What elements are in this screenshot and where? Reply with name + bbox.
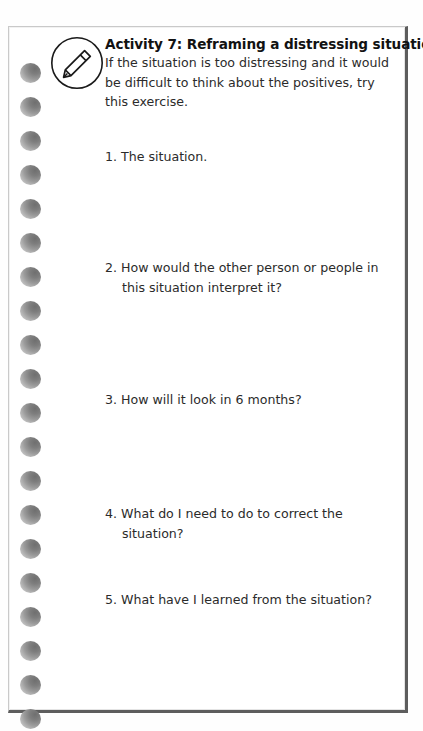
binding-hole <box>20 335 41 355</box>
margin-rule <box>52 27 53 710</box>
binding-hole <box>20 301 41 321</box>
binding-margin-strip <box>9 27 53 710</box>
question-number: 1. <box>105 149 117 164</box>
header-block: Activity 7: Reframing a distressing situ… <box>105 27 397 112</box>
question-text: How will it look in 6 months? <box>117 392 302 407</box>
question-text: What have I learned from the situation? <box>117 592 372 607</box>
binding-hole <box>20 63 41 83</box>
binding-hole <box>20 267 41 287</box>
worksheet-page: Activity 7: Reframing a distressing situ… <box>0 0 423 731</box>
pencil-icon <box>49 35 105 91</box>
question-text: The situation. <box>117 149 207 164</box>
question-item: 1. The situation. <box>105 147 207 167</box>
question-text: How would the other person or people in … <box>117 260 378 295</box>
question-item: 2. How would the other person or people … <box>105 258 395 297</box>
question-item: 3. How will it look in 6 months? <box>105 390 302 410</box>
page-title: Activity 7: Reframing a distressing situ… <box>105 27 397 52</box>
binding-hole <box>20 403 41 423</box>
binding-hole <box>20 199 41 219</box>
question-number: 3. <box>105 392 117 407</box>
question-number: 5. <box>105 592 117 607</box>
question-number: 2. <box>105 260 117 275</box>
binding-hole <box>20 539 41 559</box>
binding-hole <box>20 131 41 151</box>
binding-hole <box>20 97 41 117</box>
binding-hole <box>20 233 41 253</box>
question-text: What do I need to do to correct the situ… <box>117 506 343 541</box>
binding-hole <box>20 505 41 525</box>
binding-hole <box>20 573 41 593</box>
intro-paragraph: If the situation is too distressing and … <box>105 53 397 112</box>
question-item: 4. What do I need to do to correct the s… <box>105 504 395 543</box>
binding-hole <box>20 607 41 627</box>
binding-hole <box>20 709 41 729</box>
binding-hole <box>20 165 41 185</box>
binding-hole <box>20 369 41 389</box>
binding-hole <box>20 675 41 695</box>
binding-hole <box>20 471 41 491</box>
question-item: 5. What have I learned from the situatio… <box>105 590 372 610</box>
binding-hole <box>20 641 41 661</box>
question-number: 4. <box>105 506 117 521</box>
notebook-card: Activity 7: Reframing a distressing situ… <box>8 26 408 713</box>
binding-hole <box>20 437 41 457</box>
